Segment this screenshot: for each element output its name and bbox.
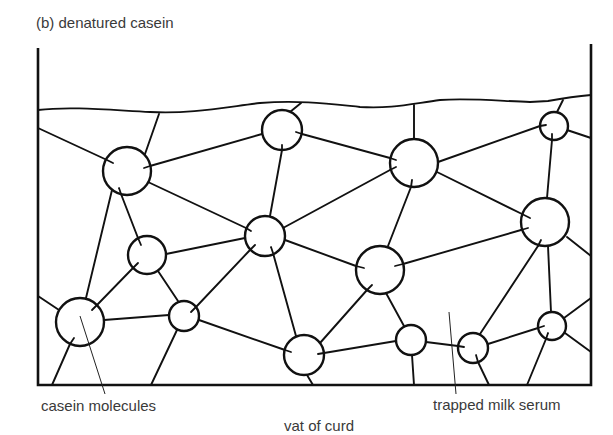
casein-molecule xyxy=(356,246,404,294)
casein-molecule xyxy=(458,333,488,363)
casein-molecule xyxy=(390,139,438,187)
trapped-milk-serum-label: trapped milk serum xyxy=(433,397,561,412)
casein-molecule xyxy=(169,301,199,331)
label-pointers xyxy=(80,312,456,394)
vat-of-curd-label: vat of curd xyxy=(284,418,354,433)
denatured-casein-diagram: (b) denatured casein xyxy=(0,0,613,435)
casein-molecule xyxy=(396,325,426,355)
curd-surface-line xyxy=(38,95,591,112)
casein-molecule xyxy=(521,198,569,246)
vat-walls xyxy=(38,44,591,385)
trapped-milk-serum-pointer xyxy=(449,312,456,394)
vat-of-curd-illustration xyxy=(0,0,613,435)
casein-molecule xyxy=(103,147,151,195)
casein-molecules xyxy=(56,110,569,375)
casein-molecules-label: casein molecules xyxy=(41,398,156,413)
casein-molecule xyxy=(284,335,324,375)
casein-molecule xyxy=(262,110,302,150)
